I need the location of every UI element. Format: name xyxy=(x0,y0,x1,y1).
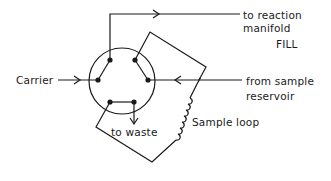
from-sample-label-1: from sample xyxy=(246,75,314,87)
to-reaction-label-1: to reaction xyxy=(243,9,302,21)
to-reaction-line xyxy=(110,14,240,60)
internal-channel-2 xyxy=(135,60,148,80)
internal-channel-1 xyxy=(98,60,110,80)
carrier-label: Carrier xyxy=(16,74,53,86)
crossover-hop xyxy=(197,78,200,84)
mode-label: FILL xyxy=(276,38,298,50)
to-reaction-label-2: manifold xyxy=(243,22,291,34)
port-6 xyxy=(131,99,136,104)
sample-loop-tube-2 xyxy=(190,84,197,98)
port-1 xyxy=(107,57,112,62)
sample-loop-coil-icon xyxy=(176,98,192,140)
sample-loop-label: Sample loop xyxy=(192,116,259,128)
port-5 xyxy=(107,99,112,104)
sample-loop-tube xyxy=(135,32,206,80)
port-2 xyxy=(132,57,137,62)
to-waste-label: to waste xyxy=(111,126,158,138)
port-4 xyxy=(145,77,150,82)
from-sample-label-2: reservoir xyxy=(246,90,294,102)
port-3 xyxy=(95,77,100,82)
